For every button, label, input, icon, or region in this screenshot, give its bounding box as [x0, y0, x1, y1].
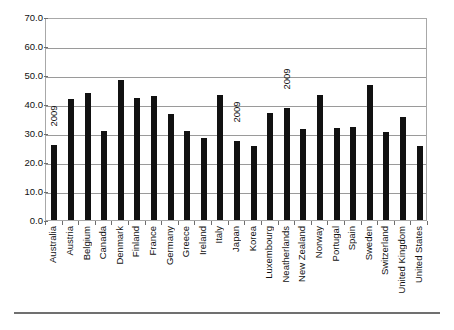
bar-slot	[262, 19, 279, 220]
footer-rule	[14, 312, 440, 314]
x-axis-tickmark	[278, 221, 279, 225]
x-axis-tick-label: Portugal	[331, 226, 341, 261]
bar[interactable]	[134, 98, 140, 220]
bar-slot: 2009	[229, 19, 246, 220]
title-remnant	[8, 0, 328, 7]
bar-slot	[395, 19, 412, 220]
bar-slot	[411, 19, 428, 220]
x-axis-tick-label: Denmark	[115, 226, 125, 265]
bar-slot: 2009	[279, 19, 296, 220]
x-axis-tickmark	[244, 221, 245, 225]
bar[interactable]	[334, 128, 340, 220]
bar[interactable]	[101, 131, 107, 220]
bar-slot	[195, 19, 212, 220]
x-axis-tickmark	[261, 221, 262, 225]
y-axis-tickmark	[44, 76, 48, 77]
bar-slot	[362, 19, 379, 220]
x-axis-tickmark	[361, 221, 362, 225]
bar-slot	[245, 19, 262, 220]
bar[interactable]	[251, 146, 257, 220]
bar-slot	[96, 19, 113, 220]
x-axis-tickmark	[78, 221, 79, 225]
x-axis-tick-label: Neatherlands	[281, 226, 291, 283]
chart-figure: 70.060.050.040.030.020.010.00.0 20092009…	[0, 0, 454, 330]
x-axis-tickmark	[294, 221, 295, 225]
bar[interactable]	[51, 145, 57, 220]
x-axis-tick-label: Switzerland	[380, 226, 390, 275]
bar-slot	[79, 19, 96, 220]
x-axis-tick-label: Italy	[214, 226, 224, 243]
bar[interactable]	[400, 117, 406, 220]
bar[interactable]	[383, 132, 389, 220]
x-axis-tick-label: Norway	[314, 226, 324, 258]
bar[interactable]	[300, 129, 306, 220]
bar[interactable]	[367, 85, 373, 220]
x-axis-tick-label: Austria	[65, 226, 75, 256]
x-axis-tick-label: Australia	[48, 226, 58, 263]
x-axis-tick-label: United States	[414, 226, 424, 283]
bar-slot	[328, 19, 345, 220]
y-axis-tickmark	[44, 105, 48, 106]
x-axis-tick-label: Korea	[248, 226, 258, 251]
x-axis-tick-label: Luxembourg	[264, 226, 274, 279]
bar[interactable]	[68, 99, 74, 220]
y-axis-tick-label: 20.0	[3, 158, 43, 168]
bar[interactable]	[350, 127, 356, 220]
y-axis-tick-label: 10.0	[3, 187, 43, 197]
bar-slot	[212, 19, 229, 220]
y-axis-tickmark	[44, 163, 48, 164]
x-axis-tickmark	[211, 221, 212, 225]
x-axis-tick-label: Canada	[98, 226, 108, 259]
bar-slot	[312, 19, 329, 220]
x-axis-tick-label: Spain	[347, 226, 357, 250]
bar[interactable]	[184, 131, 190, 220]
bar[interactable]	[284, 108, 290, 220]
bar[interactable]	[201, 138, 207, 220]
bar-slot	[295, 19, 312, 220]
y-axis-labels: 70.060.050.040.030.020.010.00.0	[0, 18, 43, 221]
bar[interactable]	[85, 93, 91, 220]
bar[interactable]	[234, 141, 240, 220]
x-axis-tickmark	[394, 221, 395, 225]
bar-slot	[146, 19, 163, 220]
y-axis-tick-label: 60.0	[3, 42, 43, 52]
x-axis-tick-label: Greece	[181, 226, 191, 257]
x-axis-tickmark	[95, 221, 96, 225]
x-axis-tickmark	[410, 221, 411, 225]
y-axis-tick-label: 70.0	[3, 13, 43, 23]
bar-slot	[378, 19, 395, 220]
bar-slot	[63, 19, 80, 220]
bar[interactable]	[168, 114, 174, 220]
x-axis-tickmark	[377, 221, 378, 225]
y-axis-tick-label: 0.0	[3, 216, 43, 226]
x-axis-tickmark	[311, 221, 312, 225]
bar-slot	[129, 19, 146, 220]
x-axis-tick-label: New Zealand	[297, 226, 307, 282]
bar-slot	[179, 19, 196, 220]
x-axis-tick-label: Belgium	[82, 226, 92, 260]
x-axis-tickmark	[128, 221, 129, 225]
x-axis-tickmark	[111, 221, 112, 225]
y-axis-tickmark	[44, 18, 48, 19]
y-axis-tick-label: 40.0	[3, 100, 43, 110]
bar-annotation-2009: 2009	[49, 106, 59, 127]
y-axis-tickmark	[44, 221, 48, 222]
bar-slot: 2009	[46, 19, 63, 220]
x-axis-tick-label: Germany	[165, 226, 175, 265]
x-axis-tickmark	[327, 221, 328, 225]
y-axis-tickmark	[44, 192, 48, 193]
bar[interactable]	[317, 95, 323, 220]
x-axis-tick-label: France	[148, 226, 158, 256]
bar[interactable]	[267, 113, 273, 220]
x-axis-tickmark	[194, 221, 195, 225]
bar[interactable]	[417, 146, 423, 220]
plot-area: 200920092009	[45, 18, 427, 221]
x-axis-tickmark	[161, 221, 162, 225]
bar[interactable]	[151, 96, 157, 220]
x-axis-tick-label: United Kingdom	[397, 226, 407, 294]
bar[interactable]	[118, 80, 124, 220]
y-axis-tickmark	[44, 134, 48, 135]
bar[interactable]	[217, 95, 223, 220]
bar-slot	[112, 19, 129, 220]
x-axis-tickmark	[178, 221, 179, 225]
